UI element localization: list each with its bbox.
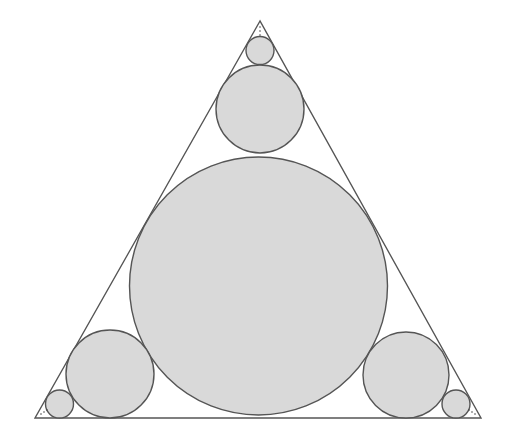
dot-left — [40, 413, 42, 415]
dot-top — [259, 30, 261, 32]
dot-left — [46, 409, 48, 411]
circle-top-medium — [216, 65, 304, 153]
circle-left-small — [46, 390, 74, 418]
dot-left — [43, 411, 45, 413]
diagram-canvas — [0, 0, 511, 446]
circle-right-medium — [363, 332, 449, 418]
dot-right — [471, 411, 473, 413]
dot-right — [468, 409, 470, 411]
dot-top — [259, 26, 261, 28]
circle-right-small — [442, 390, 470, 418]
circle-top-small — [246, 37, 274, 65]
circle-incircle — [130, 157, 388, 415]
dot-right — [474, 413, 476, 415]
circle-left-medium — [66, 330, 154, 418]
inscribed-circles — [46, 37, 471, 419]
dot-top — [259, 34, 261, 36]
triangle-circles-diagram — [0, 0, 511, 446]
